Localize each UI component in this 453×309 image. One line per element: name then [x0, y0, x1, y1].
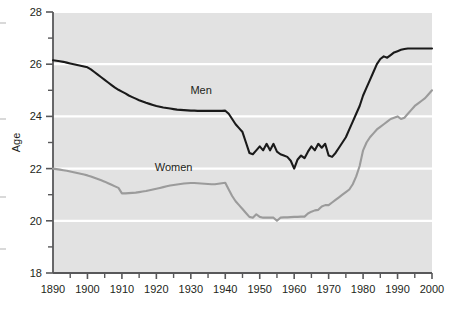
y-axis-tick-labels: 182022242628 [30, 6, 42, 279]
x-tick-label: 1960 [282, 283, 306, 295]
y-tick-label: 24 [30, 110, 42, 122]
x-tick-label: 1980 [351, 283, 375, 295]
x-tick-label: 1970 [316, 283, 340, 295]
y-tick-label: 18 [30, 267, 42, 279]
line-chart: 182022242628 189019001910192019301940195… [0, 0, 453, 309]
y-tick-label: 28 [30, 6, 42, 18]
chart-figure: 182022242628 189019001910192019301940195… [0, 0, 453, 309]
y-tick-label: 20 [30, 215, 42, 227]
x-tick-label: 1910 [110, 283, 134, 295]
x-tick-label: 1890 [41, 283, 65, 295]
x-tick-label: 1940 [213, 283, 237, 295]
y-tick-label: 22 [30, 163, 42, 175]
y-tick-label: 26 [30, 58, 42, 70]
y-axis-title: Age [10, 133, 22, 153]
x-axis-tick-labels: 1890190019101920193019401950196019701980… [41, 283, 444, 295]
plot-background [53, 12, 432, 273]
x-tick-label: 1950 [247, 283, 271, 295]
x-tick-label: 1930 [179, 283, 203, 295]
x-tick-label: 2000 [420, 283, 444, 295]
series-label-women: Women [155, 161, 193, 173]
series-label-men: Men [190, 84, 211, 96]
x-tick-label: 1920 [144, 283, 168, 295]
x-tick-label: 1990 [385, 283, 409, 295]
x-tick-label: 1900 [75, 283, 99, 295]
